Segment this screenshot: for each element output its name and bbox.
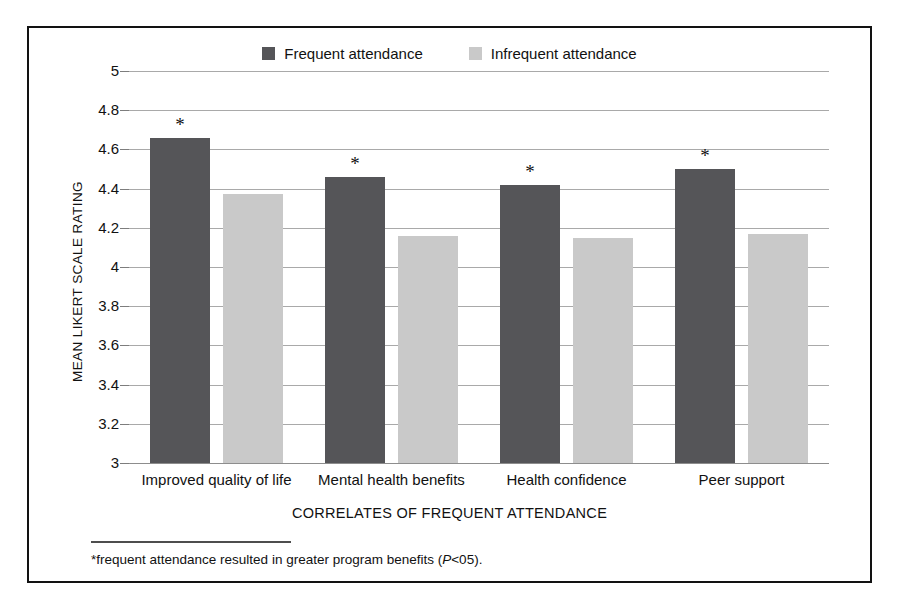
footnote-divider: [91, 541, 291, 543]
bar: [150, 138, 210, 463]
x-category-label: Peer support: [654, 472, 829, 488]
y-tick-label: 3.8: [59, 298, 119, 313]
footnote-italic-p: P: [442, 552, 451, 567]
y-tick-mark: [120, 71, 129, 72]
y-tick-mark: [120, 189, 129, 190]
legend-entry-infrequent-attendance: Infrequent attendance: [469, 46, 637, 61]
y-tick-mark: [120, 306, 129, 307]
chart-legend: Frequent attendance Infrequent attendanc…: [29, 46, 870, 61]
footnote-suffix: <05).: [451, 552, 482, 567]
x-axis-title: CORRELATES OF FREQUENT ATTENDANCE: [29, 505, 870, 521]
legend-label-frequent-attendance: Frequent attendance: [284, 46, 422, 61]
y-tick-mark: [120, 110, 129, 111]
y-tick-mark: [120, 385, 129, 386]
bar: [573, 238, 633, 463]
y-tick-label: 4.4: [59, 181, 119, 196]
y-tick-mark: [120, 345, 129, 346]
legend-label-infrequent-attendance: Infrequent attendance: [491, 46, 637, 61]
y-tick-label: 3.4: [59, 377, 119, 392]
gridline: [129, 110, 829, 111]
gridline: [129, 71, 829, 72]
y-tick-mark: [120, 463, 129, 464]
y-tick-label: 3: [59, 455, 119, 470]
y-tick-mark: [120, 267, 129, 268]
y-tick-label: 5: [59, 63, 119, 78]
y-tick-label: 4.2: [59, 220, 119, 235]
significance-asterisk: *: [150, 115, 210, 134]
footnote-prefix: *frequent attendance resulted in greater…: [91, 552, 442, 567]
legend-swatch-infrequent-attendance: [469, 47, 482, 60]
y-tick-label: 3.2: [59, 416, 119, 431]
gridline: [129, 463, 829, 464]
footnote: *frequent attendance resulted in greater…: [91, 552, 482, 568]
x-category-label: Mental health benefits: [304, 472, 479, 488]
y-tick-label: 4: [59, 259, 119, 274]
y-tick-mark: [120, 228, 129, 229]
plot-area: 54.84.64.44.243.83.63.43.23*Improved qua…: [129, 71, 829, 463]
bar: [325, 177, 385, 463]
figure: Frequent attendance Infrequent attendanc…: [0, 0, 900, 614]
bar: [675, 169, 735, 463]
y-tick-label: 4.8: [59, 102, 119, 117]
bar: [500, 185, 560, 463]
significance-asterisk: *: [500, 162, 560, 181]
y-tick-mark: [120, 149, 129, 150]
y-tick-mark: [120, 424, 129, 425]
x-category-label: Improved quality of life: [129, 472, 304, 488]
y-tick-label: 3.6: [59, 337, 119, 352]
y-tick-label: 4.6: [59, 141, 119, 156]
significance-asterisk: *: [675, 146, 735, 165]
legend-entry-frequent-attendance: Frequent attendance: [262, 46, 422, 61]
legend-swatch-frequent-attendance: [262, 47, 275, 60]
bar: [398, 236, 458, 463]
bar: [748, 234, 808, 463]
x-category-label: Health confidence: [479, 472, 654, 488]
significance-asterisk: *: [325, 154, 385, 173]
bar: [223, 194, 283, 463]
figure-border: Frequent attendance Infrequent attendanc…: [27, 26, 872, 583]
